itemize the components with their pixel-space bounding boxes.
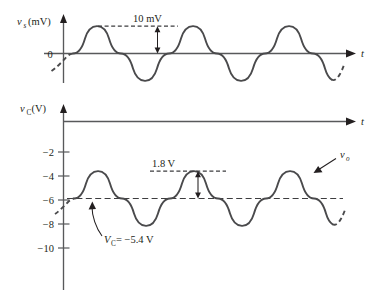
top-amplitude-label: 10 mV [133,13,162,24]
dc-level-value: = −5.4 V [116,234,154,245]
output-label-subscript: o [346,155,350,163]
bottom-plot-y-ticks: −2 −4 −6 −8 −10 [38,147,70,254]
top-ytick-zero: 0 [47,49,52,60]
top-ylabel-subscript: s [24,22,27,30]
bottom-ylabel-unit: (V) [32,103,47,115]
top-ylabel-symbol: v [17,16,22,27]
bottom-ytick-2: −6 [43,195,54,206]
bottom-ylabel-symbol: v [20,103,25,114]
bottom-ytick-3: −8 [43,219,54,230]
bottom-amplitude-label: 1.8 V [152,158,176,169]
bottom-plot-x-axis [64,118,357,126]
output-label-symbol: v [340,149,345,160]
top-plot-y-axis-label: v s (mV) [17,16,51,30]
bottom-ytick-1: −4 [43,171,55,182]
top-xlabel: t [361,48,365,59]
top-plot-y-axis [60,14,67,83]
bottom-xlabel: t [361,116,365,127]
top-plot-amplitude-annotation: 10 mV [98,13,178,53]
top-ylabel-unit: (mV) [28,16,51,28]
bottom-ytick-4: −10 [38,243,54,254]
bottom-ytick-0: −2 [43,147,54,158]
bottom-plot-y-axis [60,104,67,290]
bottom-plot-y-axis-label: v C (V) [20,103,47,117]
bottom-plot-group: v C (V) t −2 −4 −6 −8 −10 [20,103,365,290]
bottom-plot-amplitude-annotation: 1.8 V [150,158,226,198]
output-waveform-callout: v o [314,149,351,173]
figure-root: v s (mV) t 0 [0,0,382,294]
top-plot-group: v s (mV) t 0 [17,13,365,83]
waveform-figure: v s (mV) t 0 [0,0,382,294]
